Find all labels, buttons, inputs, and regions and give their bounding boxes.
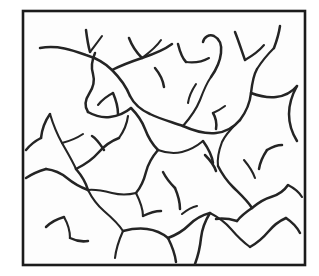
figure-root: Scanned black line drawing of a dense de…	[0, 0, 319, 276]
line-network-figure	[0, 0, 319, 276]
